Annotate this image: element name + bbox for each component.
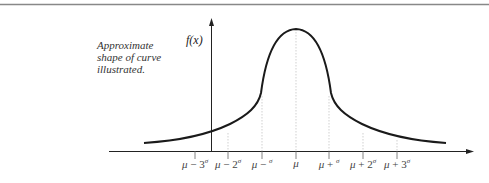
sigma-symbol: σ — [269, 157, 272, 165]
tick-operator: + 2 — [355, 158, 372, 170]
y-axis-arrow-icon — [209, 18, 214, 26]
tick-label-mu-plus-3sigma: μ + 3σ — [384, 157, 410, 170]
sigma-symbol: σ — [373, 157, 376, 165]
normal-curve-diagram — [0, 0, 489, 183]
tick-operator: − 2 — [220, 158, 237, 170]
tick-label-mu-minus-2sigma: μ − 2σ — [215, 157, 241, 170]
tick-label-mu: μ — [293, 157, 299, 169]
y-axis-label: f(x) — [186, 33, 203, 48]
x-axis-arrow-icon — [466, 149, 474, 154]
tick-label-mu-plus-2sigma: μ + 2σ — [350, 157, 376, 170]
sigma-symbol: σ — [407, 157, 410, 165]
sigma-symbol: σ — [205, 157, 208, 165]
tick-operator: + 3 — [389, 158, 406, 170]
tick-label-mu-minus-3sigma: μ − 3σ — [182, 157, 208, 170]
caption-line-2: shape of curve — [97, 51, 207, 63]
mu-symbol: μ — [293, 157, 299, 169]
sigma-guides — [228, 29, 397, 151]
sigma-symbol: σ — [336, 157, 339, 165]
tick-operator: − — [257, 158, 269, 170]
tick-label-mu-plus-sigma: μ + σ — [319, 157, 340, 170]
tick-label-mu-minus-sigma: μ − σ — [252, 157, 273, 170]
x-axis — [109, 149, 474, 154]
tick-operator: − 3 — [187, 158, 204, 170]
sigma-symbol: σ — [238, 157, 241, 165]
tick-operator: + — [324, 158, 336, 170]
caption-line-3: illustrated. — [97, 63, 207, 75]
